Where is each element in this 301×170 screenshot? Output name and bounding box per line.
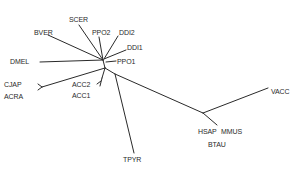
taxon-label-acc1: ACC1 — [72, 92, 90, 99]
taxon-label-tpyr: TPYR — [123, 156, 141, 163]
tree-branch — [38, 84, 42, 87]
tree-branch — [102, 68, 105, 78]
tree-branches — [0, 0, 301, 170]
taxon-label-acra: ACRA — [4, 93, 23, 100]
phylogenetic-tree-diagram: SCER BVER PPO2 DDI2 DDI1 DMEL PPO1 CJAP … — [0, 0, 301, 170]
taxon-label-cjap: CJAP — [4, 81, 22, 88]
tree-branch — [40, 60, 103, 62]
taxon-label-mmus: MMUS — [221, 128, 242, 135]
taxon-label-ppo1: PPO1 — [117, 58, 135, 65]
tree-branch — [103, 60, 105, 68]
tree-branch — [105, 68, 115, 74]
taxon-label-ppo2: PPO2 — [92, 29, 110, 36]
taxon-label-ddi1: DDI1 — [127, 44, 143, 51]
taxon-label-ddi2: DDI2 — [119, 29, 135, 36]
tree-branch — [38, 87, 42, 90]
taxon-label-dmel: DMEL — [10, 58, 29, 65]
tree-branch — [104, 36, 118, 59]
tree-branch — [203, 88, 268, 113]
tree-branch — [203, 113, 217, 125]
tree-branch — [115, 74, 134, 153]
tree-branch — [106, 61, 116, 62]
taxon-label-hsap: HSAP — [198, 128, 217, 135]
taxon-label-btau: BTAU — [208, 141, 226, 148]
taxon-label-vacc: VACC — [271, 88, 290, 95]
tree-branch — [115, 74, 203, 113]
taxon-label-acc2: ACC2 — [72, 81, 90, 88]
taxon-label-bver: BVER — [34, 29, 53, 36]
taxon-label-scer: SCER — [69, 16, 88, 23]
